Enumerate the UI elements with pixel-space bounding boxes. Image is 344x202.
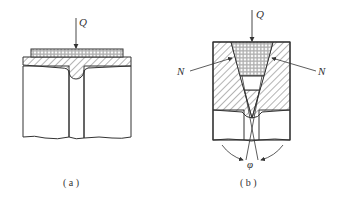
force-label-q-b: Q [256,8,264,20]
normal-force-label-right: N [317,65,326,77]
angle-arc-left [222,145,243,160]
force-label-q-a: Q [79,16,87,28]
punch-plate-a [31,49,123,57]
diagram-canvas: Q ( a ) φ Q N N ( b ) [0,0,344,202]
normal-force-label-left: N [176,65,185,77]
caption-b: ( b ) [240,177,257,189]
caption-a: ( a ) [63,177,79,189]
angle-label-phi: φ [247,158,253,170]
angle-arc-right [261,145,283,160]
panel-b: φ Q N N ( b ) [176,8,326,189]
panel-a: Q ( a ) [23,16,131,189]
